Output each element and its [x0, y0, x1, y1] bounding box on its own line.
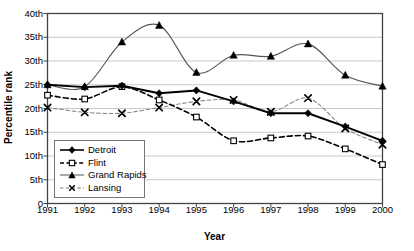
- x-axis-tick-label: 1996: [223, 205, 244, 215]
- x-axis-title: Year: [47, 231, 382, 242]
- data-point-marker: [305, 95, 311, 101]
- series-grand-rapids: [44, 21, 386, 89]
- data-point-marker: [380, 162, 386, 168]
- legend-key-filled-diamond-icon: [59, 144, 85, 156]
- data-point-marker: [267, 110, 274, 117]
- x-axis-tick-label: 2000: [372, 205, 393, 215]
- data-point-marker: [156, 90, 163, 97]
- line-chart: Percentile rank 05th10th15th20th25th30th…: [0, 0, 414, 251]
- legend: Detroit Flint Grand Rapids Lansing: [54, 140, 145, 198]
- data-point-marker: [193, 69, 200, 76]
- legend-label-grand-rapids: Grand Rapids: [85, 170, 147, 180]
- legend-label-lansing: Lansing: [85, 183, 121, 193]
- data-point-marker: [156, 97, 162, 103]
- legend-item-detroit: Detroit: [59, 144, 140, 157]
- data-point-marker: [268, 135, 274, 141]
- legend-label-flint: Flint: [85, 158, 106, 168]
- data-point-marker: [231, 138, 237, 144]
- x-axis-tick-label: 1998: [297, 205, 318, 215]
- legend-key-open-square-icon: [59, 157, 85, 169]
- x-axis-tick-label: 1999: [335, 205, 356, 215]
- data-point-marker: [305, 110, 312, 117]
- legend-label-detroit: Detroit: [85, 145, 116, 155]
- x-axis-tick-label: 1991: [37, 205, 58, 215]
- x-axis-tick-label: 1997: [260, 205, 281, 215]
- data-point-marker: [82, 96, 88, 102]
- legend-item-lansing: Lansing: [59, 182, 140, 195]
- data-point-marker: [342, 123, 349, 130]
- legend-item-flint: Flint: [59, 157, 140, 170]
- x-axis-tick-label: 1994: [149, 205, 170, 215]
- data-point-marker: [342, 71, 349, 78]
- legend-item-grand-rapids: Grand Rapids: [59, 169, 140, 182]
- data-point-marker: [305, 133, 311, 139]
- data-point-marker: [230, 98, 237, 105]
- series-line: [48, 24, 383, 89]
- legend-key-cross-x-icon: [59, 182, 85, 194]
- series-detroit: [44, 81, 386, 144]
- data-point-marker: [194, 114, 200, 120]
- data-point-marker: [342, 146, 348, 152]
- legend-key-filled-triangle-icon: [59, 169, 85, 181]
- data-point-marker: [45, 92, 51, 98]
- x-axis-tick-label: 1992: [74, 205, 95, 215]
- data-point-marker: [193, 87, 200, 94]
- data-point-marker: [118, 38, 125, 45]
- x-axis-tick-label: 1993: [111, 205, 132, 215]
- x-axis-tick-label: 1995: [186, 205, 207, 215]
